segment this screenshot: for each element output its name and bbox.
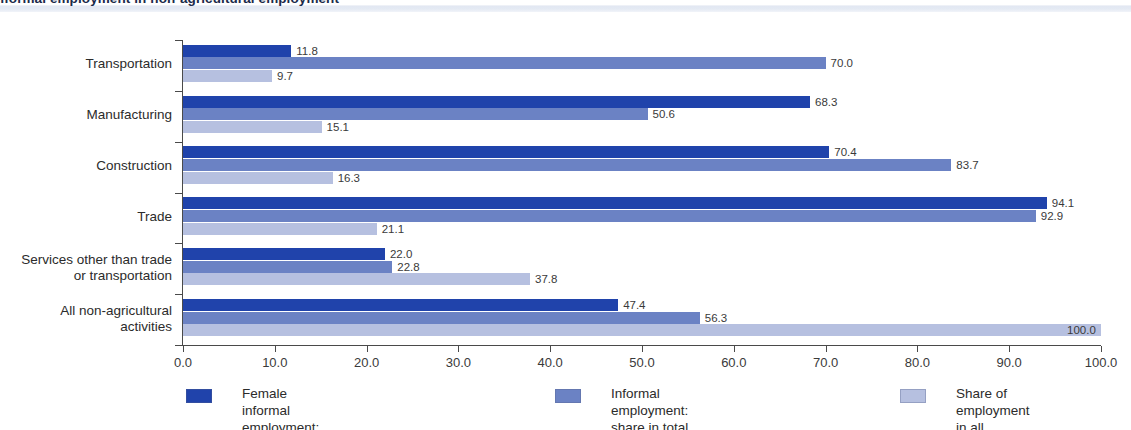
bar-value-label: 47.4 [623,299,645,311]
bar [183,299,618,311]
category-label: All non-agricultural activities [0,303,172,335]
category-label: Trade [0,209,172,225]
legend-swatch-icon [186,389,212,403]
bar [183,159,951,171]
y-axis-tick [175,91,182,92]
category-label: Services other than trade or transportat… [0,252,172,284]
bar-value-label: 50.6 [653,108,675,120]
bar [183,261,392,273]
bar-value-label: 100.0 [1067,324,1096,336]
bar-value-label: 83.7 [956,159,978,171]
bar [183,108,648,120]
bar [183,312,700,324]
bar [183,248,385,260]
bar-group: 22.022.837.8 [183,248,1101,285]
x-tick-label: 90.0 [979,355,1039,370]
category-label: Manufacturing [0,107,172,123]
legend-label: Female informal employment: share in tot… [242,385,319,430]
x-axis-tick [550,346,551,352]
x-tick-label: 80.0 [887,355,947,370]
category-label: Transportation [0,56,172,72]
bar-value-label: 22.0 [390,248,412,260]
bar-group: 94.192.921.1 [183,197,1101,234]
x-tick-label: 60.0 [704,355,764,370]
y-axis-tick [175,243,182,244]
bar [183,96,810,108]
bar-value-label: 92.9 [1041,210,1063,222]
category-label: Construction [0,158,172,174]
x-tick-label: 20.0 [337,355,397,370]
chart-page: Informal employment in non-agricultural … [0,0,1131,430]
title-band-gradient [0,6,1131,12]
x-axis-tick [734,346,735,352]
y-axis-tick [175,142,182,143]
bar-value-label: 37.8 [535,273,557,285]
bar [183,121,322,133]
bar-value-label: 22.8 [397,261,419,273]
bar-value-label: 16.3 [338,172,360,184]
y-axis-tick [175,345,182,346]
bar-value-label: 15.1 [327,121,349,133]
x-axis-tick [183,346,184,352]
y-axis-tick [175,294,182,295]
bar-value-label: 94.1 [1052,197,1074,209]
y-axis-tick [175,193,182,194]
bar-value-label: 9.7 [277,70,293,82]
y-axis-tick [175,40,182,41]
legend-label: Informal employment: share in total empl… [611,385,688,430]
bar-group: 68.350.615.1 [183,96,1101,133]
bar-value-label: 70.4 [834,146,856,158]
x-tick-label: 10.0 [245,355,305,370]
x-tick-label: 100.0 [1071,355,1131,370]
bar [183,324,1101,336]
bar-value-label: 68.3 [815,96,837,108]
bar [183,197,1047,209]
bar [183,223,377,235]
bar [183,146,829,158]
x-axis-tick [826,346,827,352]
x-tick-label: 40.0 [520,355,580,370]
bar [183,172,333,184]
x-tick-label: 70.0 [796,355,856,370]
x-axis-tick [275,346,276,352]
bar [183,57,826,69]
title-band: Informal employment in non-agricultural … [0,0,1131,12]
bar [183,273,530,285]
x-tick-label: 50.0 [612,355,672,370]
bar-value-label: 56.3 [705,312,727,324]
chart-legend: Female informal employment: share in tot… [0,386,1131,430]
bar-group: 11.870.09.7 [183,45,1101,82]
bar-value-label: 70.0 [831,57,853,69]
bar [183,70,272,82]
plot-area: 11.870.09.768.350.615.170.483.716.394.19… [182,40,1100,345]
bar-group: 70.483.716.3 [183,146,1101,183]
x-axis-tick [917,346,918,352]
legend-label: Share of employment in all activities [956,385,1030,430]
x-axis-tick [458,346,459,352]
bar-value-label: 21.1 [382,223,404,235]
x-tick-label: 30.0 [428,355,488,370]
bar [183,210,1036,222]
bar [183,45,291,57]
x-tick-label: 0.0 [153,355,213,370]
legend-swatch-icon [555,389,581,403]
x-axis-tick [1101,346,1102,352]
x-axis-tick [1009,346,1010,352]
x-axis-tick [642,346,643,352]
x-axis-tick [367,346,368,352]
bar-value-label: 11.8 [296,45,318,57]
legend-swatch-icon [900,389,926,403]
bar-group: 47.456.3100.0 [183,299,1101,336]
